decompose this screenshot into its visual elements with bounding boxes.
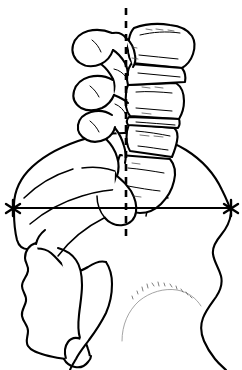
spine-pelvis-diagram: Lateral lumbosacral spine and pelvis lin… [0,0,242,370]
upper-lumbar-vertebra [128,24,194,68]
femoral-head [122,282,201,341]
lower-vertebral-body [127,124,178,157]
spinous-process-lower [78,111,115,142]
spinous-process-upper [72,30,113,66]
lamina-upper [113,33,126,38]
lower-lumbar-vertebra [127,124,178,157]
spinous-process-middle [73,76,114,110]
upper-vertebral-body [128,24,194,68]
facet-detail-lower [115,104,126,115]
middle-lumbar-vertebra [126,83,184,119]
facet-detail-upper [114,69,126,77]
disc-lower [127,117,180,128]
femoral-head-outline [122,289,201,341]
middle-vertebral-body [126,83,184,119]
right-ilium-border [201,213,231,370]
